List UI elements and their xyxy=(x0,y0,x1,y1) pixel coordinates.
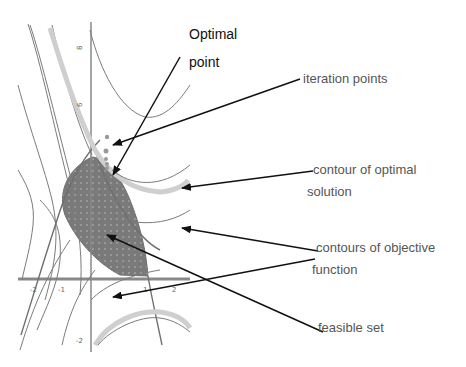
label-optimal-point-line2: point xyxy=(189,50,237,74)
label-optimal-point-line1: Optimal xyxy=(189,22,237,46)
svg-text:-2: -2 xyxy=(76,337,83,345)
svg-text:-1: -1 xyxy=(58,286,65,294)
label-contours-objective-line1: contours of objective xyxy=(316,238,435,258)
label-contour-optimal: contour of optimal solution xyxy=(313,160,416,202)
label-optimal-point: Optimal point xyxy=(189,22,237,74)
optimal-contour xyxy=(50,28,188,192)
label-contour-optimal-line1: contour of optimal xyxy=(313,160,416,180)
arrow-contour-optimal xyxy=(182,171,313,188)
optimal-contour-lower xyxy=(95,312,190,345)
svg-text:-2: -2 xyxy=(30,286,37,294)
svg-text:6: 6 xyxy=(76,102,84,107)
label-contours-objective-line2: function xyxy=(312,260,435,280)
label-feasible-set: feasible set xyxy=(318,318,384,338)
svg-text:8: 8 xyxy=(76,46,84,50)
svg-text:2: 2 xyxy=(172,286,176,294)
arrow-iteration-points xyxy=(113,79,300,145)
arrow-optimal-point xyxy=(113,57,180,175)
label-contour-optimal-line2: solution xyxy=(307,182,416,202)
label-iteration-points: iteration points xyxy=(303,69,388,89)
label-contours-objective: contours of objective function xyxy=(316,238,435,280)
annotation-arrows xyxy=(107,57,323,332)
arrow-feasible-set xyxy=(107,235,323,332)
arrow-contours-objective-1 xyxy=(182,228,318,251)
